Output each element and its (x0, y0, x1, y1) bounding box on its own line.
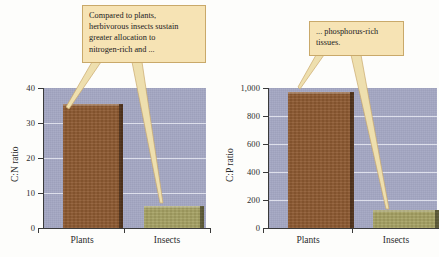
bar-shadow (200, 206, 204, 228)
callout-nitrogen-line1: Compared to plants, (89, 10, 200, 21)
x-label-cn-plants: Plants (48, 235, 116, 245)
callout-phosphorus: ... phosphorus-rich tissues. (309, 21, 404, 56)
callout-nitrogen-line3: greater allocation to (89, 32, 200, 43)
callout-phosphorus-line2: tissues. (316, 37, 398, 48)
bar-face (288, 92, 354, 228)
x-tick-cn-start (38, 228, 39, 233)
y-tick-cp-600 (263, 144, 268, 145)
bar-face (373, 210, 439, 228)
y-tick-cp-400 (263, 172, 268, 173)
y-axis-line-cp (268, 88, 269, 229)
bar-cn-insects (144, 206, 204, 228)
x-label-cp-insects: Insects (362, 235, 430, 245)
y-axis-title-cp: C:P ratio (225, 148, 235, 182)
figure-root: 40 30 20 10 0 Plants Insects C:N ratio (0, 0, 439, 257)
x-label-cp-plants: Plants (274, 235, 342, 245)
x-tick-cp-start (263, 228, 264, 233)
bar-cp-insects (373, 210, 439, 228)
callout-nitrogen-line4: nitrogen-rich and ... (89, 44, 200, 55)
x-label-cn-insects: Insects (133, 235, 201, 245)
y-tick-label-cn-0: 0 (12, 223, 35, 233)
bar-shadow (350, 92, 354, 228)
y-tick-cn-30 (38, 123, 43, 124)
y-tick-cn-20 (38, 158, 43, 159)
bar-highlight (288, 92, 350, 94)
bar-face (144, 206, 204, 228)
y-tick-cn-40 (38, 88, 43, 89)
y-tick-label-cp-800: 800 (227, 111, 260, 121)
y-tick-cp-200 (263, 200, 268, 201)
bar-highlight (63, 104, 119, 106)
bar-shadow (119, 104, 123, 228)
y-tick-label-cp-200: 200 (227, 195, 260, 205)
plot-area-cp (268, 88, 437, 228)
callout-phosphorus-line1: ... phosphorus-rich (316, 26, 398, 37)
bar-cp-plants (288, 92, 354, 228)
y-tick-cp-800 (263, 116, 268, 117)
bar-cn-plants (63, 104, 123, 228)
y-tick-label-cn-10: 10 (12, 188, 35, 198)
bar-shadow (435, 210, 439, 228)
x-tick-cn-end (210, 228, 211, 233)
bar-face (63, 104, 123, 228)
plot-area-cn (43, 88, 206, 228)
callout-nitrogen-line2: herbivorous insects sustain (89, 21, 200, 32)
y-tick-label-cn-30: 30 (12, 118, 35, 128)
bar-highlight (144, 206, 200, 208)
y-tick-cn-10 (38, 193, 43, 194)
callout-nitrogen: Compared to plants, herbivorous insects … (82, 5, 206, 63)
y-axis-title-cn: C:N ratio (10, 146, 20, 182)
y-axis-line-cn (43, 88, 44, 229)
x-axis-line-cp (263, 228, 439, 229)
y-tick-cp-1000 (263, 88, 268, 89)
y-tick-label-cp-1000: 1,000 (227, 83, 260, 93)
y-tick-label-cp-0: 0 (227, 223, 260, 233)
x-tick-cn-mid (124, 228, 125, 233)
y-tick-label-cn-40: 40 (12, 83, 35, 93)
x-tick-cp-mid (352, 228, 353, 233)
bar-highlight (373, 210, 435, 212)
